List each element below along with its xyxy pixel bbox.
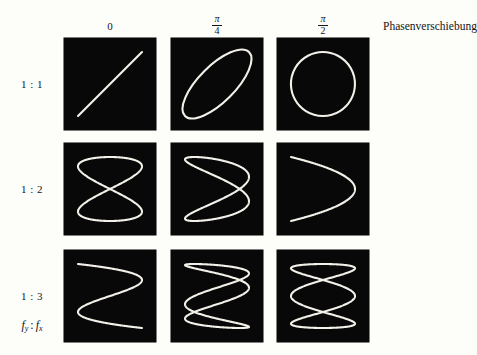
curve-path — [291, 264, 355, 328]
curve-path — [78, 52, 142, 116]
panel-1-1-phase-pi4 — [171, 38, 263, 130]
panel-1-3-phase-pi4 — [171, 250, 263, 342]
row-label-1-2: 1 : 2 — [6, 183, 58, 195]
fraction-pi-over-4: π 4 — [212, 14, 221, 36]
column-header-2: π 2 — [277, 14, 369, 36]
lissajous-curve-triple-loop-skewed — [171, 250, 263, 342]
phase-shift-caption: Phasenverschiebung — [383, 20, 477, 32]
row-label-1-1: 1 : 1 — [6, 78, 58, 90]
curve-path — [291, 52, 355, 116]
panel-1-1-phase-pi2 — [277, 38, 369, 130]
ratio-caption-sub-y: y — [25, 324, 29, 333]
curve-path — [185, 157, 249, 221]
lissajous-curve-tilted-ellipse — [171, 38, 263, 130]
fraction-denominator: 4 — [212, 26, 221, 36]
panel-1-3-phase-pi2 — [277, 250, 369, 342]
row-label-1-3: 1 : 3 — [6, 290, 58, 302]
panel-1-2-phase-pi4 — [171, 143, 263, 235]
panel-1-2-phase-pi2 — [277, 143, 369, 235]
curve-path — [78, 264, 142, 328]
fraction-denominator: 2 — [318, 26, 327, 36]
frequency-ratio-caption: fy:fx — [2, 318, 62, 333]
fraction-pi-over-2: π 2 — [318, 14, 327, 36]
curve-path — [78, 157, 142, 221]
curve-path — [291, 157, 355, 221]
fraction-numerator: π — [212, 14, 221, 24]
column-header-0: 0 — [64, 14, 156, 33]
panel-1-3-phase-0 — [64, 250, 156, 342]
lissajous-curve-circle — [277, 38, 369, 130]
lissajous-curve-parabola — [277, 143, 369, 235]
curve-path — [185, 264, 249, 328]
panel-1-2-phase-0 — [64, 143, 156, 235]
ratio-caption-colon: : — [28, 318, 35, 332]
lissajous-curve-triple-loop-symmetric — [277, 250, 369, 342]
curve-path — [183, 50, 252, 119]
lissajous-curve-skewed-figure-eight — [171, 143, 263, 235]
lissajous-curve-figure-eight — [64, 143, 156, 235]
fraction-numerator: π — [318, 14, 327, 24]
column-header-0-label: 0 — [107, 14, 113, 33]
ratio-caption-sub-x: x — [39, 324, 43, 333]
panel-1-1-phase-0 — [64, 38, 156, 130]
column-header-1: π 4 — [171, 14, 263, 36]
lissajous-curve-diagonal-line — [64, 38, 156, 130]
lissajous-curve-z-curve — [64, 250, 156, 342]
